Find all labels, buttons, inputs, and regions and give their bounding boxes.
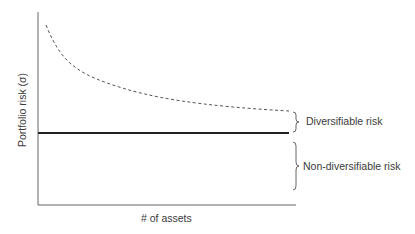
non-diversifiable-risk-label: Non-diversifiable risk	[303, 160, 400, 172]
y-axis-label: Portfolio risk (σ)	[16, 73, 28, 147]
diversifiable-risk-label: Diversifiable risk	[306, 115, 382, 127]
x-axis-label: # of assets	[141, 212, 192, 224]
diversifiable-brace-icon	[293, 112, 299, 132]
total-risk-curve	[46, 25, 289, 111]
non-diversifiable-brace-icon	[293, 142, 299, 190]
